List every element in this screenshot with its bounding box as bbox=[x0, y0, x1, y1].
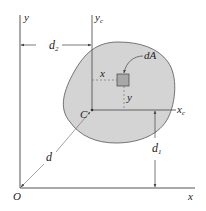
y-axis-label: y bbox=[23, 11, 29, 23]
parallel-axis-diagram: y yc x xc O C d2 d1 d dA x y bbox=[0, 0, 206, 211]
element-dA-label: dA bbox=[144, 49, 157, 61]
d2-label: d2 bbox=[49, 38, 59, 53]
d-label: d bbox=[46, 150, 53, 164]
element-x-label: x bbox=[99, 67, 105, 79]
yc-axis-label: yc bbox=[94, 11, 104, 25]
x-axis-label: x bbox=[187, 190, 193, 202]
centroid-point bbox=[91, 109, 94, 112]
area-region bbox=[63, 42, 174, 143]
d-vector-tail bbox=[21, 184, 24, 187]
xc-axis-label: xc bbox=[176, 103, 186, 117]
area-element bbox=[117, 74, 129, 86]
element-y-label: y bbox=[126, 91, 132, 103]
d1-label: d1 bbox=[152, 141, 162, 156]
origin-label: O bbox=[13, 190, 21, 202]
d-vector-line bbox=[21, 164, 44, 187]
centroid-label: C bbox=[80, 108, 88, 120]
